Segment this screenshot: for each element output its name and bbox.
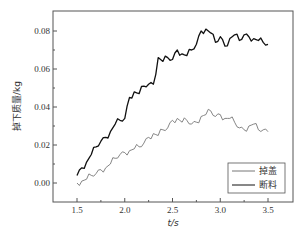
- series-lines: [77, 29, 268, 185]
- series-line-1: [77, 29, 268, 175]
- x-axis-label: t/s: [167, 218, 179, 228]
- x-tick-label: 3.5: [262, 205, 274, 215]
- legend-label-0: 掉盖: [259, 165, 277, 176]
- x-tick-label: 3.0: [215, 205, 227, 215]
- x-tick-label: 1.5: [71, 205, 83, 215]
- x-tick-label: 2.5: [167, 205, 179, 215]
- x-axis-ticks: 1.52.02.53.03.5: [71, 198, 274, 215]
- y-tick-label: 0.00: [34, 178, 50, 188]
- y-tick-label: 0.02: [34, 140, 50, 150]
- legend: 掉盖 断料: [228, 163, 285, 193]
- y-tick-label: 0.04: [34, 102, 50, 112]
- x-tick-label: 2.0: [119, 205, 131, 215]
- line-chart: 0.000.020.040.060.08 1.52.02.53.03.5 掉下质…: [0, 0, 303, 231]
- y-axis-label: 掉下质量/kg: [11, 81, 22, 131]
- y-tick-label: 0.06: [34, 64, 50, 74]
- y-axis-ticks: 0.000.020.040.060.08: [34, 26, 57, 188]
- legend-label-1: 断料: [259, 179, 277, 190]
- y-tick-label: 0.08: [34, 26, 50, 36]
